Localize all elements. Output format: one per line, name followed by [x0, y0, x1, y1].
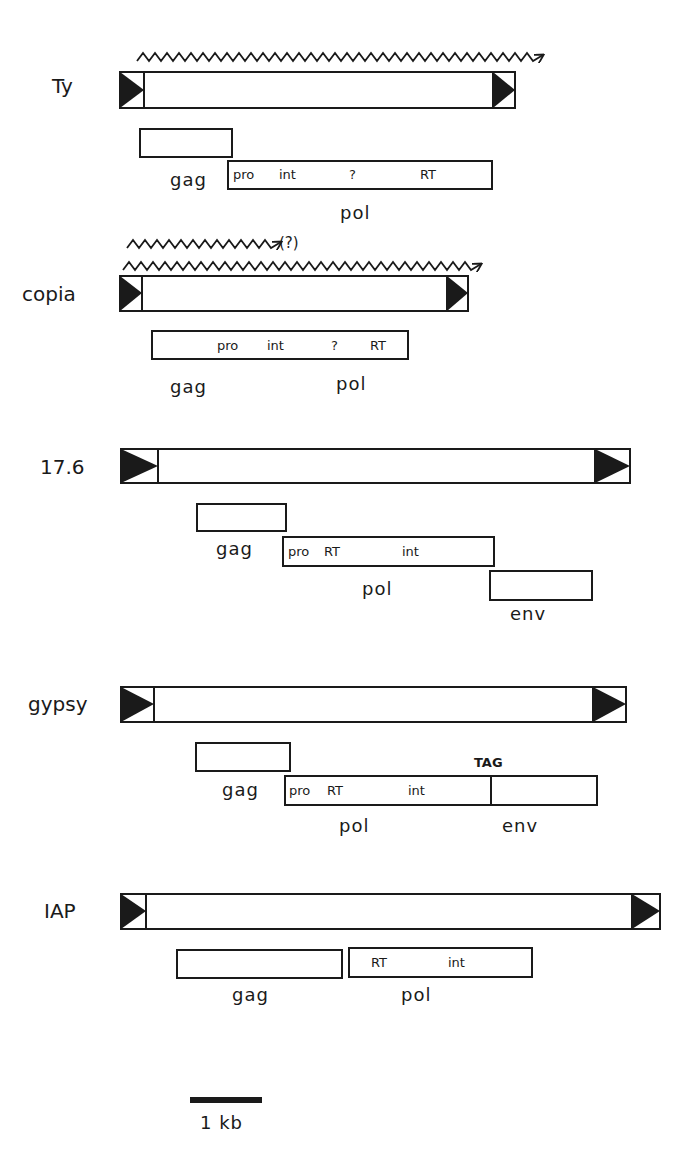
- element-17-6: 17.6 gag pro RT int pol env: [40, 449, 630, 624]
- element-label-gypsy: gypsy: [28, 692, 88, 716]
- element-body: [120, 276, 468, 311]
- orf-label-gag: gag: [170, 169, 207, 190]
- orf-pol: [228, 161, 492, 189]
- orf-label-gag: gag: [170, 376, 207, 397]
- domain-pro: pro: [233, 167, 254, 182]
- scale-bar-line: [190, 1097, 262, 1103]
- domain-rt: RT: [327, 783, 343, 798]
- domain-pro: pro: [288, 544, 309, 559]
- element-label-copia: copia: [22, 282, 76, 306]
- orf-gag: [177, 950, 342, 978]
- stop-codon-tag: TAG: [474, 755, 503, 770]
- element-body: [121, 894, 660, 929]
- domain-int: int: [279, 167, 296, 182]
- domain-unknown: ?: [349, 167, 356, 182]
- domain-pro: pro: [289, 783, 310, 798]
- element-gypsy: gypsy gag TAG pro RT int pol env: [28, 687, 626, 836]
- orf-label-pol: pol: [362, 578, 392, 599]
- element-label-ty: Ty: [51, 74, 73, 98]
- retrotransposon-diagram: Ty gag pro int ? RT pol copia (?) pro in…: [0, 0, 695, 1162]
- domain-rt: RT: [371, 955, 387, 970]
- orf-label-gag: gag: [222, 779, 259, 800]
- transcript-wave: [137, 53, 543, 61]
- element-copia: copia (?) pro int ? RT gag pol: [22, 234, 481, 397]
- orf-label-pol: pol: [336, 373, 366, 394]
- domain-int: int: [267, 338, 284, 353]
- transcript-wave-long: [123, 262, 481, 270]
- element-body: [121, 687, 626, 722]
- domain-pro: pro: [217, 338, 238, 353]
- domain-rt: RT: [420, 167, 436, 182]
- transcript-wave-short: [127, 240, 281, 248]
- domain-int: int: [402, 544, 419, 559]
- scale-bar-label: 1 kb: [200, 1112, 243, 1133]
- orf-label-env: env: [502, 815, 538, 836]
- orf-env: [490, 571, 592, 600]
- orf-gag: [196, 743, 290, 771]
- element-ty: Ty gag pro int ? RT pol: [51, 53, 543, 223]
- domain-rt: RT: [324, 544, 340, 559]
- orf-label-gag: gag: [216, 538, 253, 559]
- element-body: [120, 72, 515, 108]
- domain-unknown: ?: [331, 338, 338, 353]
- element-label-iap: IAP: [44, 899, 76, 923]
- transcript-uncertain-note: (?): [279, 234, 299, 252]
- orf-label-pol: pol: [401, 984, 431, 1005]
- orf-label-gag: gag: [232, 984, 269, 1005]
- orf-pol: [283, 537, 494, 566]
- orf-label-env: env: [510, 603, 546, 624]
- orf-label-pol: pol: [339, 815, 369, 836]
- orf-gag: [197, 504, 286, 531]
- domain-int: int: [448, 955, 465, 970]
- domain-int: int: [408, 783, 425, 798]
- element-body: [121, 449, 630, 483]
- domain-rt: RT: [370, 338, 386, 353]
- scale-bar: 1 kb: [190, 1097, 262, 1133]
- element-label-17-6: 17.6: [40, 455, 85, 479]
- element-iap: IAP gag RT int pol: [44, 894, 660, 1005]
- orf-gag: [140, 129, 232, 157]
- orf-label-pol: pol: [340, 202, 370, 223]
